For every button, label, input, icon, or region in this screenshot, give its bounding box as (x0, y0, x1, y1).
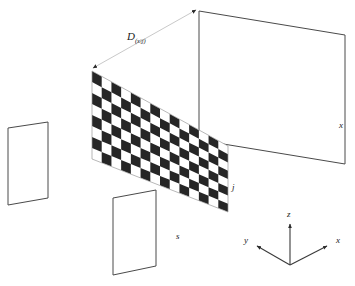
bottom-plane-label: s (176, 231, 180, 241)
checkerboard-label: j (231, 182, 235, 192)
left-plane-group (8, 122, 48, 205)
bottom-plane (113, 190, 156, 275)
right-plane (199, 11, 345, 164)
y-axis-line (257, 246, 290, 265)
right-plane-group (199, 11, 345, 164)
x-axis-label: x (335, 235, 340, 245)
distance-label-subscript: (x|j) (135, 37, 146, 45)
distance-label: D(x|j) (126, 30, 146, 45)
z-axis-label: z (286, 209, 291, 219)
x-axis-line (290, 246, 327, 265)
diagram-svg: D(x|j) x j s z y x (0, 0, 355, 286)
figure-canvas: D(x|j) x j s z y x (0, 0, 355, 286)
distance-label-base: D (126, 30, 135, 42)
y-axis-label: y (243, 235, 248, 245)
bottom-plane-group (113, 190, 156, 275)
right-plane-label: x (338, 120, 343, 130)
axis-triad: z y x (243, 209, 340, 265)
left-plane (8, 122, 48, 205)
